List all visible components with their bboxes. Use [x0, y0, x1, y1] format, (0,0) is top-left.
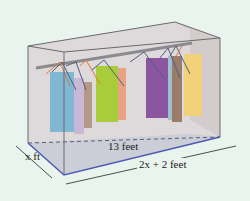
garment [146, 58, 168, 118]
garment [184, 54, 202, 116]
length-label: 2x + 2 feet [137, 158, 188, 170]
garment [74, 78, 84, 134]
closet-diagram [0, 0, 250, 201]
garment [172, 56, 182, 122]
diagonal-label: 13 feet [108, 140, 138, 152]
garment [50, 72, 74, 132]
depth-label: x ft [25, 150, 40, 162]
garment [118, 68, 126, 120]
